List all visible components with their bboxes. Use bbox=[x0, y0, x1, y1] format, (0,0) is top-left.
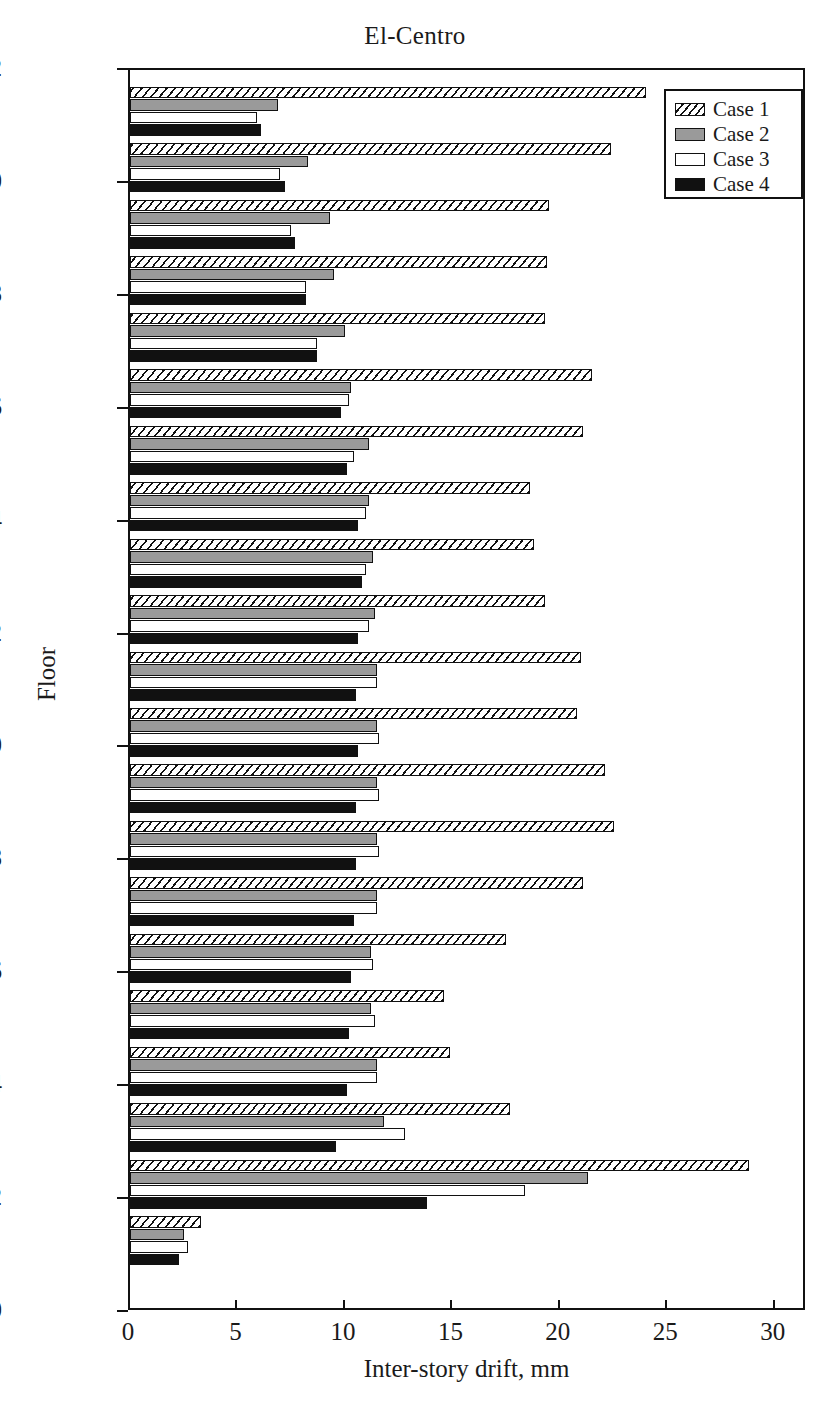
bar-case-3-floor-4 bbox=[130, 1072, 377, 1084]
x-tick-label: 10 bbox=[313, 1318, 373, 1346]
legend-swatch-case-1-icon bbox=[675, 103, 705, 116]
bar-case-2-floor-1 bbox=[130, 1229, 184, 1241]
bar-case-2-floor-11 bbox=[130, 664, 377, 676]
legend-label: Case 1 bbox=[713, 99, 770, 120]
legend-swatch-case-4-icon bbox=[675, 178, 705, 191]
y-tick-mark bbox=[117, 1197, 128, 1199]
bar-case-1-floor-13 bbox=[130, 539, 534, 551]
bar-case-4-floor-17 bbox=[130, 350, 317, 362]
bar-case-4-floor-12 bbox=[130, 633, 358, 645]
bar-case-3-floor-20 bbox=[130, 168, 280, 180]
x-tick-label: 15 bbox=[420, 1318, 480, 1346]
bar-case-3-floor-13 bbox=[130, 564, 366, 576]
chart-root: El-Centro 024681012141618202205101520253… bbox=[0, 0, 830, 1411]
bar-case-4-floor-16 bbox=[130, 407, 341, 419]
x-tick-mark bbox=[343, 1300, 345, 1310]
y-tick-mark bbox=[117, 407, 128, 409]
bar-case-4-floor-5 bbox=[130, 1028, 349, 1040]
y-tick-label: 4 bbox=[0, 1070, 2, 1098]
x-tick-mark bbox=[773, 1300, 775, 1310]
bar-case-4-floor-7 bbox=[130, 915, 354, 927]
y-tick-label: 20 bbox=[0, 167, 2, 195]
x-tick-label: 25 bbox=[635, 1318, 695, 1346]
x-tick-mark bbox=[450, 1300, 452, 1310]
chart-title: El-Centro bbox=[0, 22, 830, 50]
bar-case-3-floor-21 bbox=[130, 112, 257, 124]
bar-case-2-floor-6 bbox=[130, 946, 371, 958]
y-tick-label: 22 bbox=[0, 54, 2, 82]
bar-case-4-floor-11 bbox=[130, 689, 356, 701]
bar-case-2-floor-21 bbox=[130, 99, 278, 111]
y-tick-label: 14 bbox=[0, 506, 2, 534]
bar-case-3-floor-9 bbox=[130, 789, 379, 801]
bar-case-3-floor-19 bbox=[130, 225, 291, 237]
bar-case-3-floor-6 bbox=[130, 959, 373, 971]
bar-case-1-floor-9 bbox=[130, 764, 605, 776]
bar-case-2-floor-13 bbox=[130, 551, 373, 563]
bar-case-3-floor-16 bbox=[130, 394, 349, 406]
bar-case-1-floor-16 bbox=[130, 369, 592, 381]
y-tick-mark bbox=[117, 745, 128, 747]
bar-case-2-floor-2 bbox=[130, 1172, 588, 1184]
bar-case-2-floor-9 bbox=[130, 777, 377, 789]
y-tick-mark bbox=[117, 68, 128, 70]
legend-label: Case 2 bbox=[713, 124, 770, 145]
bar-case-3-floor-2 bbox=[130, 1185, 525, 1197]
bar-case-4-floor-15 bbox=[130, 463, 347, 475]
bar-case-1-floor-17 bbox=[130, 313, 545, 325]
y-tick-mark bbox=[117, 1084, 128, 1086]
bar-case-4-floor-1 bbox=[130, 1254, 179, 1266]
bar-case-4-floor-10 bbox=[130, 745, 358, 757]
bar-case-4-floor-9 bbox=[130, 802, 356, 814]
y-tick-mark bbox=[117, 294, 128, 296]
bar-case-4-floor-14 bbox=[130, 520, 358, 532]
legend-item: Case 3 bbox=[675, 147, 801, 172]
bar-case-1-floor-11 bbox=[130, 652, 581, 664]
bar-case-1-floor-21 bbox=[130, 87, 646, 99]
bar-case-1-floor-14 bbox=[130, 482, 530, 494]
bar-case-1-floor-18 bbox=[130, 256, 547, 268]
y-tick-label: 6 bbox=[0, 957, 2, 985]
bar-case-4-floor-19 bbox=[130, 237, 295, 249]
y-tick-mark bbox=[117, 520, 128, 522]
bar-case-3-floor-12 bbox=[130, 620, 369, 632]
y-tick-label: 18 bbox=[0, 280, 2, 308]
bar-case-3-floor-7 bbox=[130, 902, 377, 914]
y-tick-label: 0 bbox=[0, 1296, 2, 1324]
y-tick-label: 2 bbox=[0, 1183, 2, 1211]
bar-case-4-floor-8 bbox=[130, 858, 356, 870]
y-tick-mark bbox=[117, 858, 128, 860]
bar-case-1-floor-5 bbox=[130, 990, 444, 1002]
plot-area bbox=[128, 68, 805, 1310]
y-tick-label: 8 bbox=[0, 844, 2, 872]
x-tick-mark bbox=[558, 1300, 560, 1310]
bar-case-2-floor-10 bbox=[130, 720, 377, 732]
bar-case-1-floor-3 bbox=[130, 1103, 510, 1115]
legend-item: Case 1 bbox=[675, 97, 801, 122]
legend-item: Case 4 bbox=[675, 172, 801, 197]
bar-case-4-floor-2 bbox=[130, 1197, 427, 1209]
bar-case-1-floor-12 bbox=[130, 595, 545, 607]
x-tick-label: 0 bbox=[98, 1318, 158, 1346]
bar-case-1-floor-8 bbox=[130, 821, 614, 833]
bar-case-1-floor-2 bbox=[130, 1160, 749, 1172]
bar-case-2-floor-18 bbox=[130, 269, 334, 281]
y-axis-label: Floor bbox=[33, 614, 61, 734]
y-tick-mark bbox=[117, 971, 128, 973]
bar-case-3-floor-15 bbox=[130, 451, 354, 463]
bar-case-2-floor-20 bbox=[130, 156, 308, 168]
bar-case-2-floor-3 bbox=[130, 1116, 384, 1128]
bar-case-1-floor-7 bbox=[130, 877, 583, 889]
legend-item: Case 2 bbox=[675, 122, 801, 147]
y-tick-label: 16 bbox=[0, 393, 2, 421]
legend-label: Case 4 bbox=[713, 174, 770, 195]
legend-label: Case 3 bbox=[713, 149, 770, 170]
x-tick-label: 5 bbox=[205, 1318, 265, 1346]
bar-case-4-floor-13 bbox=[130, 576, 362, 588]
bar-case-3-floor-17 bbox=[130, 338, 317, 350]
legend-swatch-case-2-icon bbox=[675, 128, 705, 141]
bar-case-3-floor-10 bbox=[130, 733, 379, 745]
bar-case-1-floor-4 bbox=[130, 1047, 450, 1059]
bar-case-2-floor-4 bbox=[130, 1059, 377, 1071]
y-tick-mark bbox=[117, 181, 128, 183]
